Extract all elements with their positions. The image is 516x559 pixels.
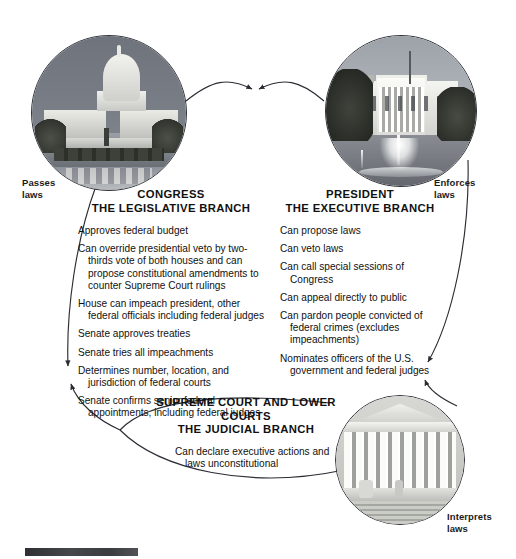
executive-power-item: Can veto laws [280,243,440,255]
arc-president-to-congress [259,82,324,101]
executive-power-item: Can propose laws [280,225,440,237]
judicial-powers-list: Can declare executive actions and laws u… [150,446,342,470]
branch-executive-name: PRESIDENT [326,188,394,200]
executive-power-item: Nominates officers of the U.S. governmen… [280,353,440,377]
branch-legislative-name: CONGRESS [137,188,204,200]
branch-judicial-name: SUPREME COURT AND LOWER COURTS [156,396,336,422]
white-house-photo [325,35,477,187]
branch-judicial: SUPREME COURT AND LOWER COURTS THE JUDIC… [150,396,342,470]
label-enforces-line2: laws [434,189,475,201]
legislative-powers-list: Approves federal budgetCan override pres… [78,225,264,420]
executive-power-item: Can pardon people convicted of federal c… [280,310,440,347]
branch-legislative-subtitle: THE LEGISLATIVE BRANCH [78,202,264,216]
label-passes-line2: laws [22,189,55,201]
arc-congress-to-president [186,82,252,101]
label-interprets-line2: laws [447,523,492,535]
branch-judicial-subtitle: THE JUDICIAL BRANCH [150,423,342,437]
legislative-power-item: House can impeach president, other feder… [78,298,264,322]
branch-legislative: CONGRESS THE LEGISLATIVE BRANCH Approves… [78,188,264,420]
checks-and-balances-diagram: Passes laws Enforces laws Interprets law… [0,0,516,559]
branch-executive: PRESIDENT THE EXECUTIVE BRANCH Can propo… [280,188,440,377]
legislative-power-item: Senate tries all impeachments [78,347,264,359]
executive-power-item: Can call special sessions of Congress [280,261,440,285]
executive-powers-list: Can propose lawsCan veto lawsCan call sp… [280,225,440,377]
legislative-power-item: Can override presidential veto by two-th… [78,243,264,292]
legislative-power-item: Approves federal budget [78,225,264,237]
executive-power-item: Can appeal directly to public [280,292,440,304]
judicial-power-item: Can declare executive actions and laws u… [175,446,342,470]
branch-executive-title: PRESIDENT THE EXECUTIVE BRANCH [280,188,440,215]
branch-legislative-title: CONGRESS THE LEGISLATIVE BRANCH [78,188,264,215]
label-enforces-line1: Enforces [434,177,475,189]
branch-judicial-title: SUPREME COURT AND LOWER COURTS THE JUDIC… [150,396,342,437]
cropped-photo-edge [25,548,138,556]
supreme-court-photo [335,395,465,525]
legislative-power-item: Senate approves treaties [78,328,264,340]
label-interprets-line1: Interprets [447,511,492,523]
branch-executive-subtitle: THE EXECUTIVE BRANCH [280,202,440,216]
legislative-power-item: Determines number, location, and jurisdi… [78,365,264,389]
label-passes-line1: Passes [22,177,55,189]
label-interprets-laws: Interprets laws [447,511,492,534]
label-enforces-laws: Enforces laws [434,177,475,200]
label-passes-laws: Passes laws [22,177,55,200]
us-capitol-photo [31,35,187,191]
